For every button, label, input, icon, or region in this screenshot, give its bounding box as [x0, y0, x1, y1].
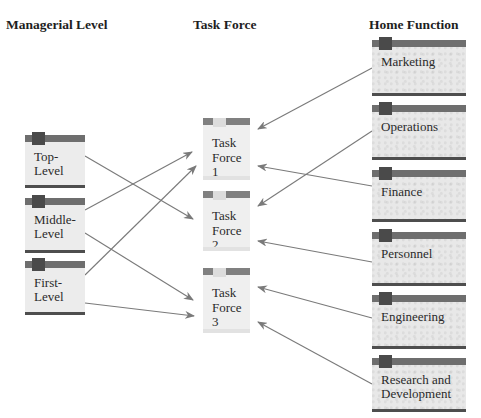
home-function-label: Research and Development [381, 373, 451, 401]
box-header-bar [203, 118, 250, 125]
arrow-engineering-to-tf3 [258, 287, 372, 318]
arrow-middle-to-tf1 [85, 152, 192, 210]
box-base-line [372, 283, 466, 286]
managerial-box-middle: Middle- Level [25, 198, 85, 253]
home-function-box-marketing: Marketing [372, 40, 466, 96]
home-function-box-operations: Operations [372, 105, 466, 160]
box-tab-marker [32, 195, 45, 208]
box-tab-marker [379, 102, 392, 115]
box-header-bar [203, 191, 250, 198]
box-tab-marker [379, 355, 392, 368]
box-tab-gap [213, 191, 226, 200]
box-header-bar [203, 268, 250, 275]
home-function-box-research-and-development: Research and Development [372, 358, 466, 412]
box-base-line [25, 185, 85, 188]
task-force-box-3: Task Force 3 [203, 268, 250, 333]
arrow-rnd-to-tf3 [258, 322, 372, 384]
home-function-box-personnel: Personnel [372, 232, 466, 286]
managerial-box-first: First- Level [25, 261, 85, 315]
home-function-label: Marketing [381, 55, 435, 69]
box-base-line [372, 409, 466, 412]
box-base-line [25, 312, 85, 315]
home-function-label: Finance [381, 185, 422, 199]
arrow-first-to-tf1 [85, 166, 196, 275]
arrow-top-to-tf2 [85, 156, 193, 219]
managerial-box-top: Top- Level [25, 135, 85, 188]
box-tab-marker [32, 258, 45, 271]
home-function-label: Personnel [381, 247, 432, 261]
box-tab-gap [213, 118, 226, 127]
task-force-label: Task Force 1 [212, 136, 242, 180]
box-tab-gap [213, 268, 226, 277]
home-function-label: Engineering [381, 310, 445, 324]
box-tab-marker [379, 292, 392, 305]
arrow-personnel-to-tf2 [258, 241, 372, 262]
task-force-box-1: Task Force 1 [203, 118, 250, 180]
task-force-label: Task Force 3 [212, 286, 242, 330]
box-base-line [203, 329, 250, 333]
box-base-line [372, 219, 466, 222]
box-base-line [203, 247, 250, 251]
task-force-box-2: Task Force 2 [203, 191, 250, 251]
box-base-line [372, 346, 466, 349]
box-tab-marker [379, 37, 392, 50]
home-function-label: Operations [381, 120, 438, 134]
task-force-label: Task Force 2 [212, 209, 242, 253]
home-function-box-engineering: Engineering [372, 295, 466, 349]
arrow-marketing-to-tf1 [258, 68, 372, 129]
home-function-box-finance: Finance [372, 170, 466, 222]
managerial-label: Top- Level [34, 150, 64, 178]
managerial-label: First- Level [34, 276, 64, 304]
box-base-line [25, 250, 85, 253]
box-tab-marker [379, 167, 392, 180]
box-base-line [372, 157, 466, 160]
box-base-line [203, 176, 250, 180]
box-tab-marker [379, 229, 392, 242]
managerial-label: Middle- Level [34, 213, 76, 241]
arrow-first-to-tf3 [85, 303, 194, 316]
box-base-line [372, 93, 466, 96]
box-tab-marker [32, 132, 45, 145]
arrow-middle-to-tf3 [85, 233, 193, 300]
